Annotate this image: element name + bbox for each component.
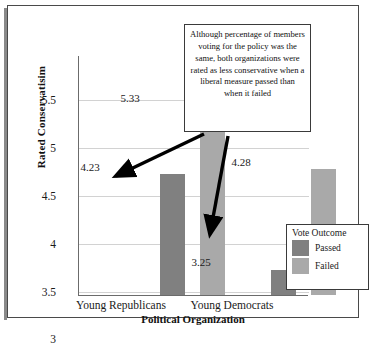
- figure-frame: Rated Conservatisim 5.554.543.53 4.235.3…: [7, 5, 359, 318]
- legend-item-passed: Passed: [292, 240, 368, 256]
- legend-swatch-failed: [292, 258, 309, 274]
- legend: Vote Outcome PassedFailed: [286, 224, 369, 290]
- legend-item-failed: Failed: [292, 258, 368, 274]
- gridline-2: [79, 196, 309, 197]
- legend-swatch-passed: [292, 240, 309, 256]
- y-axis-title: Rated Conservatisim: [35, 47, 47, 187]
- x-axis-title: Political Organization: [78, 313, 308, 325]
- x-tick-young-democrats: Young Democrats: [167, 299, 297, 311]
- y-tick-4: 4: [16, 238, 56, 250]
- bar-label-passed-young-republicans: 4.23: [67, 161, 113, 173]
- y-tick-3.5: 3.5: [16, 286, 56, 298]
- annotation-callout: Although percentage of members voting fo…: [184, 24, 311, 132]
- gridline-3: [79, 244, 309, 245]
- gridline-1: [79, 148, 309, 149]
- y-tick-5.5: 5.5: [16, 94, 56, 106]
- legend-title: Vote Outcome: [292, 228, 368, 238]
- legend-items: PassedFailed: [292, 240, 368, 274]
- bar-label-failed-young-democrats: 4.28: [218, 156, 264, 168]
- bar-passed-young-republicans: [160, 174, 185, 295]
- y-tick-3: 3: [16, 333, 56, 345]
- y-tick-4.5: 4.5: [16, 190, 56, 202]
- bar-label-passed-young-democrats: 3.25: [178, 256, 224, 268]
- bar-label-failed-young-republicans: 5.33: [107, 92, 153, 104]
- legend-label-passed: Passed: [315, 243, 341, 253]
- y-tick-5: 5: [16, 142, 56, 154]
- legend-label-failed: Failed: [315, 261, 339, 271]
